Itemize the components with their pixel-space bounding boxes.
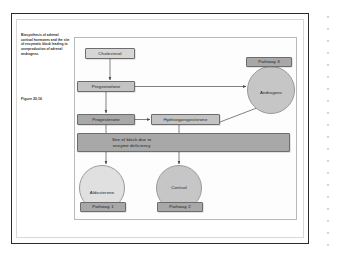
node-pathway-2-label: Pathway 2 <box>169 204 190 210</box>
node-progesterone-label: Progesterone <box>92 117 120 123</box>
node-pathway-2: Pathway 2 <box>157 202 203 212</box>
figure-caption-text: Biosynthesis of adrenal cortical hormone… <box>21 33 70 56</box>
node-pathway-1: Pathway 1 <box>80 202 126 212</box>
node-androgens-label: Androgens <box>260 90 282 95</box>
node-pregnenolone-label: Pregnenolone <box>92 84 121 90</box>
figure-number-label: Figure 20.16 <box>21 97 42 101</box>
node-hydroxyprogesterone-label: Hydroxyprogesterone <box>164 117 208 123</box>
node-enzyme-block-band-label: Site of block due to enzyme deficiency <box>112 137 151 149</box>
node-enzyme-block-band: Site of block due to enzyme deficiency <box>77 133 290 152</box>
node-androgens: Androgens <box>247 66 295 114</box>
margin-ruler-dots <box>327 16 329 248</box>
node-pathway-3: Pathway 3 <box>246 57 292 67</box>
node-aldosterone-label: Aldosterone <box>90 190 115 195</box>
node-cholesterol-label: Cholesterol <box>98 51 121 57</box>
node-progesterone: Progesterone <box>77 114 135 125</box>
node-hydroxyprogesterone: Hydroxyprogesterone <box>151 114 220 125</box>
figure-page: Biosynthesis of adrenal cortical hormone… <box>0 0 337 264</box>
node-cholesterol: Cholesterol <box>85 48 135 59</box>
node-pathway-3-label: Pathway 3 <box>258 59 279 65</box>
node-pathway-1-label: Pathway 1 <box>92 204 113 210</box>
figure-caption: Biosynthesis of adrenal cortical hormone… <box>21 33 70 56</box>
node-cortisol-label: Cortisol <box>171 185 187 190</box>
node-pregnenolone: Pregnenolone <box>77 81 135 92</box>
